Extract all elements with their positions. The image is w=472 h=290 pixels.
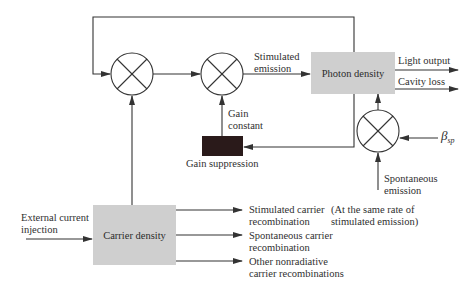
stimulated-carrier-label: Stimulated carrier recombination xyxy=(249,204,325,227)
other-nonradiative-label: Other nonradiative carrier recombination… xyxy=(249,256,344,279)
carrier-density-block: Carrier density xyxy=(93,205,176,265)
spontaneous-carrier-label: Spontaneous carrier recombination xyxy=(249,230,333,253)
stimulated-emission-label: Stimulated emission xyxy=(254,51,300,74)
gain-constant-label: Gain constant xyxy=(228,108,263,131)
multiplier-1-icon xyxy=(111,53,153,95)
multiplier-2-icon xyxy=(201,53,243,95)
photon-density-block: Photon density xyxy=(311,52,395,94)
external-current-label: External current injection xyxy=(21,212,89,235)
cavity-loss-label: Cavity loss xyxy=(398,76,445,88)
same-rate-note: (At the same rate of stimulated emission… xyxy=(331,204,418,227)
multiplier-3-icon xyxy=(357,110,399,152)
photon-density-label: Photon density xyxy=(322,68,385,79)
gain-suppression-block xyxy=(202,136,243,156)
beta-sp-label: βsp xyxy=(441,130,455,147)
gain-suppression-label: Gain suppression xyxy=(186,158,259,170)
light-output-label: Light output xyxy=(398,55,450,67)
carrier-density-label: Carrier density xyxy=(103,230,166,241)
spontaneous-emission-label: Spontaneous emission xyxy=(384,173,438,196)
